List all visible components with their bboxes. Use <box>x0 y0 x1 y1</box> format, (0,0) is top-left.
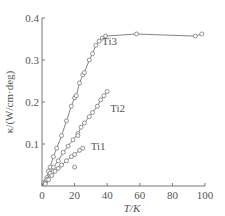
y-tick-label: 0.4 <box>25 12 39 24</box>
x-axis-title: T/K <box>124 202 141 214</box>
data-point <box>200 32 204 36</box>
data-point <box>69 104 73 108</box>
data-point <box>91 111 95 115</box>
data-point <box>60 163 64 167</box>
data-point <box>95 104 99 108</box>
series-label: Ti1 <box>91 140 106 152</box>
series-label: Ti2 <box>110 102 125 114</box>
data-point <box>105 90 109 94</box>
y-tick-label: 0.3 <box>25 54 39 66</box>
x-tick-label: 100 <box>197 189 214 201</box>
data-point <box>77 81 81 85</box>
x-tick-label: 80 <box>167 189 179 201</box>
series-label: Ti3 <box>102 35 117 47</box>
data-point <box>60 134 64 138</box>
data-point <box>193 34 197 38</box>
data-point <box>66 144 70 148</box>
data-point <box>87 115 91 119</box>
data-point-outlier <box>73 165 77 169</box>
data-point <box>71 138 75 142</box>
x-tick-label: 60 <box>134 189 146 201</box>
data-point <box>47 178 51 182</box>
data-point <box>51 155 55 159</box>
data-point <box>79 125 83 129</box>
y-axis-title: κ/(W/cm·deg) <box>3 70 16 133</box>
x-tick-label: 40 <box>102 189 114 201</box>
data-point <box>50 174 54 178</box>
data-point <box>51 165 55 169</box>
data-point <box>73 153 77 157</box>
data-point <box>74 94 78 98</box>
thermal-conductivity-chart: 0204060801000.10.20.30.4 Ti3Ti2Ti1 T/K κ… <box>0 0 225 216</box>
data-point <box>55 146 59 150</box>
data-point <box>87 58 91 62</box>
data-point <box>53 169 57 173</box>
data-point <box>81 146 85 150</box>
y-tick-label: 0.2 <box>25 96 39 108</box>
data-point <box>135 32 139 36</box>
data-point <box>64 159 68 163</box>
data-point <box>102 94 106 98</box>
data-point <box>56 159 60 163</box>
data-point <box>64 119 68 123</box>
data-point <box>82 121 86 125</box>
data-point <box>43 182 47 186</box>
data-point <box>91 52 95 56</box>
data-point-outlier <box>76 134 80 138</box>
data-point <box>56 166 60 170</box>
data-point <box>82 71 86 75</box>
x-tick-label: 0 <box>39 189 45 201</box>
data-point <box>97 39 101 43</box>
series-layer: Ti3Ti2Ti1 <box>42 32 204 186</box>
data-point <box>99 98 103 102</box>
y-tick-label: 0.1 <box>25 138 39 150</box>
data-point <box>94 43 98 47</box>
data-point <box>61 150 65 154</box>
x-tick-label: 20 <box>69 189 81 201</box>
